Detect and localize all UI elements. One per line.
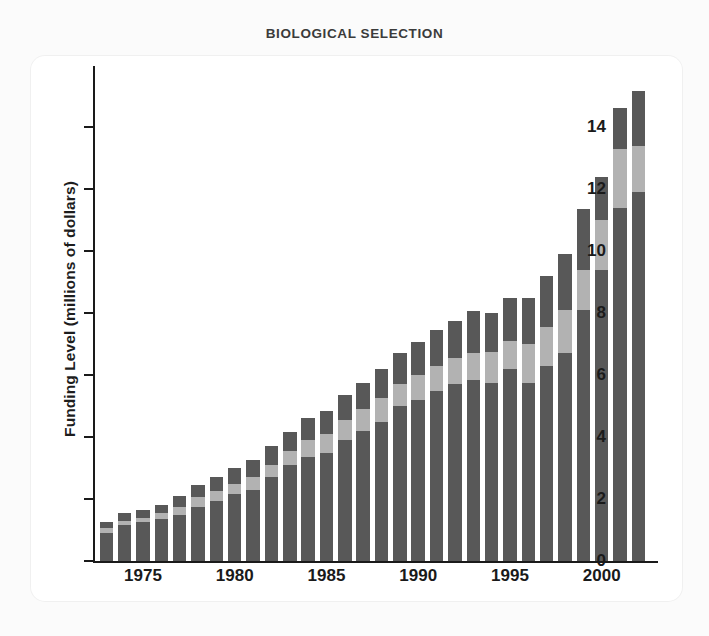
- bar-segment-middle: [467, 353, 481, 379]
- bar-segment-lower: [467, 380, 481, 561]
- bar-segment-lower: [136, 522, 150, 561]
- bar-segment-lower: [320, 453, 334, 562]
- bar-segment-upper: [191, 485, 205, 497]
- bar-segment-upper: [301, 418, 315, 440]
- bar-segment-lower: [155, 519, 169, 561]
- bar-segment-upper: [210, 477, 224, 491]
- bar-segment-lower: [173, 515, 187, 562]
- y-axis-tick: [84, 498, 93, 500]
- bar-segment-middle: [411, 375, 425, 400]
- bar-segment-middle: [613, 149, 627, 208]
- chart-figure: BIOLOGICAL SELECTION Funding Level (mill…: [0, 0, 709, 636]
- bar-segment-middle: [430, 366, 444, 391]
- y-axis-tick-label: 8: [566, 303, 606, 323]
- bar-segment-middle: [375, 398, 389, 421]
- bar-segment-lower: [375, 422, 389, 562]
- bar-segment-lower: [118, 525, 132, 561]
- bar-segment-lower: [265, 477, 279, 561]
- bar: [613, 108, 627, 561]
- bar-segment-upper: [540, 276, 554, 327]
- bar: [467, 311, 481, 561]
- bar-segment-lower: [430, 391, 444, 562]
- bar-segment-upper: [136, 510, 150, 518]
- y-axis-tick: [84, 374, 93, 376]
- bar-segment-middle: [301, 440, 315, 457]
- y-axis-tick: [84, 560, 93, 562]
- bar-segment-upper: [356, 383, 370, 409]
- chart-title: BIOLOGICAL SELECTION: [0, 26, 709, 41]
- bar-segment-upper: [173, 496, 187, 507]
- bar: [320, 411, 334, 561]
- y-axis-title: Funding Level (millions of dollars): [61, 99, 79, 519]
- bar-segment-middle: [540, 327, 554, 366]
- bar: [155, 505, 169, 561]
- bar-segment-lower: [228, 494, 242, 561]
- bar: [632, 91, 646, 561]
- bar-segment-lower: [210, 501, 224, 561]
- bar-segment-lower: [448, 384, 462, 561]
- bar-segment-middle: [485, 352, 499, 383]
- bar-segment-middle: [503, 341, 517, 369]
- bar-segment-upper: [522, 298, 536, 345]
- bar-segment-upper: [558, 254, 572, 310]
- bar-segment-lower: [411, 400, 425, 561]
- bar-segment-middle: [632, 146, 646, 193]
- y-axis-tick-label: 4: [566, 427, 606, 447]
- bar-segment-middle: [118, 521, 132, 526]
- bar-segment-upper: [118, 513, 132, 521]
- bar-segment-lower: [191, 507, 205, 561]
- y-axis-tick: [84, 188, 93, 190]
- bar-segment-middle: [136, 518, 150, 523]
- bar-segment-upper: [283, 432, 297, 451]
- bar-segment-middle: [265, 465, 279, 477]
- bar: [393, 353, 407, 561]
- bar-segment-upper: [448, 321, 462, 358]
- bar-segment-lower: [393, 406, 407, 561]
- x-axis-tick-label: 1975: [103, 566, 183, 586]
- bar-segment-lower: [283, 465, 297, 561]
- bar: [173, 496, 187, 561]
- bar-segment-lower: [613, 208, 627, 561]
- bar-segment-middle: [173, 507, 187, 515]
- bar-segment-lower: [338, 440, 352, 561]
- bar-segment-lower: [632, 192, 646, 561]
- bar-segment-upper: [375, 369, 389, 398]
- bar-segment-upper: [155, 505, 169, 513]
- bar: [411, 342, 425, 561]
- bar-segment-upper: [467, 311, 481, 353]
- bar: [301, 418, 315, 561]
- bar-segment-lower: [522, 383, 536, 561]
- x-axis-tick-label: 1990: [378, 566, 458, 586]
- bar: [375, 369, 389, 561]
- bar: [265, 446, 279, 561]
- bar-segment-middle: [320, 434, 334, 453]
- bar-segment-upper: [100, 522, 114, 528]
- bar-segment-middle: [155, 513, 169, 519]
- bar: [246, 460, 260, 561]
- bar: [485, 313, 499, 561]
- y-axis-tick-label: 12: [566, 179, 606, 199]
- bar-segment-upper: [265, 446, 279, 465]
- bar-segment-middle: [393, 384, 407, 406]
- bar-segment-lower: [246, 490, 260, 561]
- bar-segment-upper: [503, 298, 517, 341]
- x-axis-tick-label: 1980: [195, 566, 275, 586]
- bar-segment-middle: [283, 451, 297, 465]
- bar: [210, 477, 224, 561]
- bar: [100, 522, 114, 561]
- bar-segment-upper: [246, 460, 260, 477]
- bar-segment-upper: [485, 313, 499, 352]
- bar: [118, 513, 132, 561]
- bar-segment-upper: [632, 91, 646, 145]
- bar-segment-middle: [191, 497, 205, 506]
- y-axis-tick-label: 6: [566, 365, 606, 385]
- y-axis-tick-label: 10: [566, 241, 606, 261]
- bar-segment-middle: [522, 344, 536, 383]
- bar-segment-middle: [246, 477, 260, 489]
- bar: [338, 395, 352, 561]
- bar-segment-upper: [338, 395, 352, 420]
- bar: [522, 298, 536, 562]
- bar-segment-lower: [540, 366, 554, 561]
- bar-segment-upper: [320, 411, 334, 434]
- y-axis-tick: [84, 126, 93, 128]
